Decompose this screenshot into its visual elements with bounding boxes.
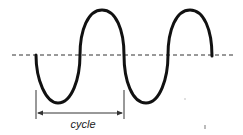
arrowhead-left-icon [37, 111, 43, 116]
sine-wave-diagram: cycle [0, 0, 243, 135]
arrowhead-right-icon [117, 111, 123, 116]
speck [184, 98, 185, 99]
cycle-label: cycle [70, 118, 95, 130]
speck [204, 125, 206, 129]
sine-wave [36, 10, 212, 103]
